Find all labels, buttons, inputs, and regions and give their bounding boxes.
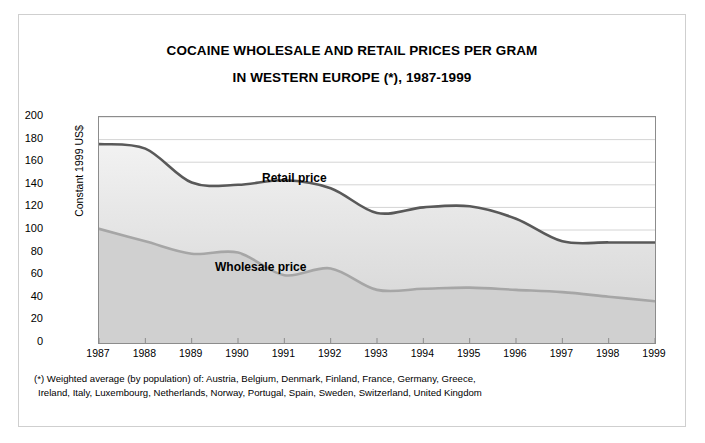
x-tick-label-1994: 1994: [399, 347, 445, 359]
chart-title-line-1: COCAINE WHOLESALE AND RETAIL PRICES PER …: [19, 37, 685, 64]
y-tick-label-200: 200: [13, 110, 43, 121]
y-tick-label-120: 120: [13, 200, 43, 211]
footnote-line-2: Ireland, Italy, Luxembourg, Netherlands,…: [34, 386, 674, 400]
x-tick-label-1995: 1995: [446, 347, 492, 359]
y-axis-label: Constant 1999 US$: [73, 81, 85, 261]
y-tick-label-80: 80: [13, 246, 43, 257]
x-tick-label-1988: 1988: [121, 347, 167, 359]
chart-figure: COCAINE WHOLESALE AND RETAIL PRICES PER …: [18, 14, 686, 427]
plot-area: [98, 116, 656, 344]
chart-footnote: (*) Weighted average (by population) of:…: [34, 372, 674, 400]
y-tick-label-100: 100: [13, 223, 43, 234]
chart-title: COCAINE WHOLESALE AND RETAIL PRICES PER …: [19, 37, 685, 91]
y-tick-label-140: 140: [13, 178, 43, 189]
y-tick-label-180: 180: [13, 133, 43, 144]
x-tick-label-1990: 1990: [214, 347, 260, 359]
y-tick-label-160: 160: [13, 155, 43, 166]
y-tick-label-20: 20: [13, 313, 43, 324]
chart-title-line-2: IN WESTERN EUROPE (*), 1987-1999: [19, 64, 685, 91]
x-tick-label-1991: 1991: [260, 347, 306, 359]
y-tick-label-40: 40: [13, 291, 43, 302]
y-tick-label-60: 60: [13, 268, 43, 279]
y-tick-label-0: 0: [13, 336, 43, 347]
x-tick-label-1997: 1997: [538, 347, 584, 359]
x-tick-label-1993: 1993: [353, 347, 399, 359]
footnote-line-1: (*) Weighted average (by population) of:…: [34, 372, 674, 386]
x-tick-label-1992: 1992: [307, 347, 353, 359]
x-tick-label-1987: 1987: [75, 347, 121, 359]
retail-series-annotation: Retail price: [262, 171, 327, 185]
x-tick-label-1999: 1999: [631, 347, 677, 359]
x-tick-label-1998: 1998: [585, 347, 631, 359]
x-tick-label-1996: 1996: [492, 347, 538, 359]
series-canvas: [99, 117, 655, 343]
x-tick-label-1989: 1989: [168, 347, 214, 359]
wholesale-series-annotation: Wholesale price: [215, 260, 306, 274]
